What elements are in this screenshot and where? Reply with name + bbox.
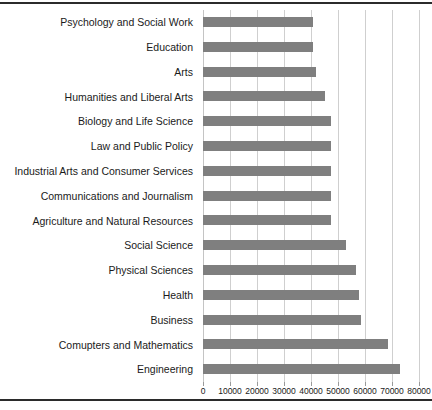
bar-row[interactable] <box>203 208 419 233</box>
bar-row[interactable] <box>203 357 419 382</box>
category-label: Health <box>163 290 193 301</box>
top-divider-rule <box>0 2 432 4</box>
bar[interactable] <box>203 290 359 300</box>
category-label-row: Engineering <box>0 357 199 382</box>
category-label: Industrial Arts and Consumer Services <box>14 166 193 177</box>
category-label-row: Social Science <box>0 233 199 258</box>
x-axis-tick-label: 40000 <box>299 387 323 396</box>
bar-row[interactable] <box>203 109 419 134</box>
x-axis-tick-label: 80000 <box>407 387 431 396</box>
bar[interactable] <box>203 67 316 77</box>
category-label-row: Health <box>0 283 199 308</box>
bar-row[interactable] <box>203 134 419 159</box>
category-label: Comupters and Mathematics <box>59 340 193 351</box>
category-label: Education <box>146 42 193 53</box>
bar[interactable] <box>203 17 313 27</box>
category-label-row: Comupters and Mathematics <box>0 332 199 357</box>
bar[interactable] <box>203 265 356 275</box>
category-axis-labels: Psychology and Social WorkEducationArtsH… <box>0 10 199 382</box>
category-label-row: Communications and Journalism <box>0 184 199 209</box>
bar-row[interactable] <box>203 233 419 258</box>
category-label: Biology and Life Science <box>78 116 193 127</box>
bar-row[interactable] <box>203 308 419 333</box>
bar-row[interactable] <box>203 258 419 283</box>
bar-row[interactable] <box>203 10 419 35</box>
category-label-row: Business <box>0 308 199 333</box>
category-label-row: Biology and Life Science <box>0 109 199 134</box>
gridline <box>419 10 420 382</box>
x-axis-tick-label: 30000 <box>272 387 296 396</box>
bar[interactable] <box>203 191 331 201</box>
category-label-row: Psychology and Social Work <box>0 10 199 35</box>
bar-row[interactable] <box>203 35 419 60</box>
bar-rows <box>203 10 419 382</box>
x-axis-tick-label: 60000 <box>353 387 377 396</box>
plot-area <box>203 10 419 382</box>
x-axis-tick-label: 50000 <box>326 387 350 396</box>
category-label: Arts <box>174 67 193 78</box>
category-label: Physical Sciences <box>108 265 193 276</box>
category-label-row: Law and Public Policy <box>0 134 199 159</box>
bar[interactable] <box>203 116 331 126</box>
category-label-row: Arts <box>0 60 199 85</box>
x-axis-tick-label: 70000 <box>380 387 404 396</box>
category-label-row: Education <box>0 35 199 60</box>
bar[interactable] <box>203 339 388 349</box>
category-label: Engineering <box>137 364 193 375</box>
category-label: Agriculture and Natural Resources <box>33 216 194 227</box>
category-label: Social Science <box>124 240 193 251</box>
bar-row[interactable] <box>203 84 419 109</box>
chart-page: Psychology and Social WorkEducationArtsH… <box>0 0 432 410</box>
bar[interactable] <box>203 166 331 176</box>
category-label-row: Agriculture and Natural Resources <box>0 208 199 233</box>
category-label: Communications and Journalism <box>41 191 193 202</box>
category-label-row: Humanities and Liberal Arts <box>0 84 199 109</box>
category-label: Humanities and Liberal Arts <box>65 92 193 103</box>
x-axis-tick-label: 20000 <box>245 387 269 396</box>
bar-row[interactable] <box>203 184 419 209</box>
bar[interactable] <box>203 315 361 325</box>
bar-row[interactable] <box>203 283 419 308</box>
x-axis-tick-label: 10000 <box>218 387 242 396</box>
bar[interactable] <box>203 364 400 374</box>
category-label: Business <box>150 315 193 326</box>
bar[interactable] <box>203 240 346 250</box>
bar[interactable] <box>203 91 325 101</box>
bar-row[interactable] <box>203 159 419 184</box>
bar-row[interactable] <box>203 332 419 357</box>
x-axis: 0100002000030000400005000060000700008000… <box>203 382 419 402</box>
bar-chart: Psychology and Social WorkEducationArtsH… <box>0 6 432 396</box>
bar-row[interactable] <box>203 60 419 85</box>
category-label: Psychology and Social Work <box>60 17 193 28</box>
category-label: Law and Public Policy <box>91 141 193 152</box>
category-label-row: Industrial Arts and Consumer Services <box>0 159 199 184</box>
bar[interactable] <box>203 141 331 151</box>
category-label-row: Physical Sciences <box>0 258 199 283</box>
bar[interactable] <box>203 42 313 52</box>
x-axis-tick-label: 0 <box>201 387 206 396</box>
bar[interactable] <box>203 215 331 225</box>
